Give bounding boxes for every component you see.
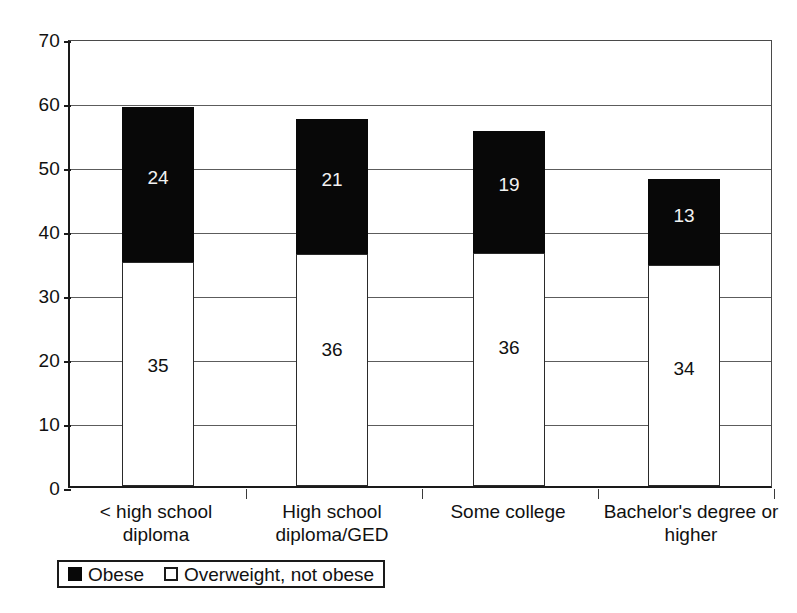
legend-entry-overweight: Overweight, not obese xyxy=(164,565,374,584)
gridline-60 xyxy=(70,105,771,106)
x-tick-label-line: Some college xyxy=(420,500,596,523)
bar-value-label: 34 xyxy=(649,359,719,378)
x-tick-label-line: diploma xyxy=(68,523,244,546)
x-tick-label-line: < high school xyxy=(68,500,244,523)
y-tick-10 xyxy=(64,425,71,427)
y-tick-label: 40 xyxy=(0,223,60,242)
filled-square-icon xyxy=(68,567,82,581)
bar-group: 36 19 xyxy=(473,131,545,486)
y-tick-40 xyxy=(64,233,71,235)
legend-label-obese: Obese xyxy=(88,565,144,584)
y-tick-label: 0 xyxy=(0,479,60,498)
bar-segment-obese: 24 xyxy=(122,107,194,262)
bar-segment-obese: 13 xyxy=(648,179,720,265)
x-tick-label-high-school-diploma-ged: High school diploma/GED xyxy=(244,500,420,546)
y-tick-20 xyxy=(64,361,71,363)
bar-value-label: 19 xyxy=(474,175,544,194)
bar-segment-obese: 21 xyxy=(296,119,368,254)
x-axis-divider xyxy=(422,489,423,499)
hollow-square-icon xyxy=(164,567,178,581)
y-tick-60 xyxy=(64,105,71,107)
y-tick-30 xyxy=(64,297,71,299)
bar-value-label: 24 xyxy=(123,168,193,187)
y-tick-0 xyxy=(64,489,71,491)
stacked-bar-chart: 70 60 50 40 30 20 10 0 35 xyxy=(0,0,797,613)
y-tick-70 xyxy=(64,41,71,43)
x-axis-divider xyxy=(774,489,775,499)
y-tick-label: 10 xyxy=(0,415,60,434)
bar-segment-overweight: 36 xyxy=(296,254,368,486)
y-tick-50 xyxy=(64,169,71,171)
legend-label-overweight: Overweight, not obese xyxy=(184,565,374,584)
bar-value-label: 36 xyxy=(297,340,367,359)
bar-segment-overweight: 35 xyxy=(122,262,194,486)
x-tick-label-line: Bachelor's degree or xyxy=(596,500,786,523)
x-tick-label-less-than-high-school: < high school diploma xyxy=(68,500,244,546)
bar-group: 35 24 xyxy=(122,107,194,486)
x-tick-label-some-college: Some college xyxy=(420,500,596,523)
x-axis-divider xyxy=(598,489,599,499)
y-tick-label: 70 xyxy=(0,31,60,50)
y-tick-label: 30 xyxy=(0,287,60,306)
x-axis-divider xyxy=(246,489,247,499)
bar-value-label: 21 xyxy=(297,170,367,189)
bar-segment-overweight: 34 xyxy=(648,265,720,486)
bar-value-label: 13 xyxy=(649,206,719,225)
bar-group: 36 21 xyxy=(296,119,368,486)
x-tick-label-line: diploma/GED xyxy=(244,523,420,546)
bar-group: 34 13 xyxy=(648,179,720,486)
plot-area: 35 24 36 21 36 19 34 xyxy=(68,40,772,488)
x-tick-label-bachelors-degree-or-higher: Bachelor's degree or higher xyxy=(596,500,786,546)
y-tick-label: 60 xyxy=(0,95,60,114)
y-tick-label: 20 xyxy=(0,351,60,370)
x-tick-label-line: High school xyxy=(244,500,420,523)
bar-segment-obese: 19 xyxy=(473,131,545,253)
bar-value-label: 36 xyxy=(474,338,544,357)
legend-entry-obese: Obese xyxy=(68,565,144,584)
bar-value-label: 35 xyxy=(123,356,193,375)
x-tick-label-line: higher xyxy=(596,523,786,546)
bar-segment-overweight: 36 xyxy=(473,253,545,486)
y-tick-label: 50 xyxy=(0,159,60,178)
chart-legend: Obese Overweight, not obese xyxy=(57,560,385,588)
